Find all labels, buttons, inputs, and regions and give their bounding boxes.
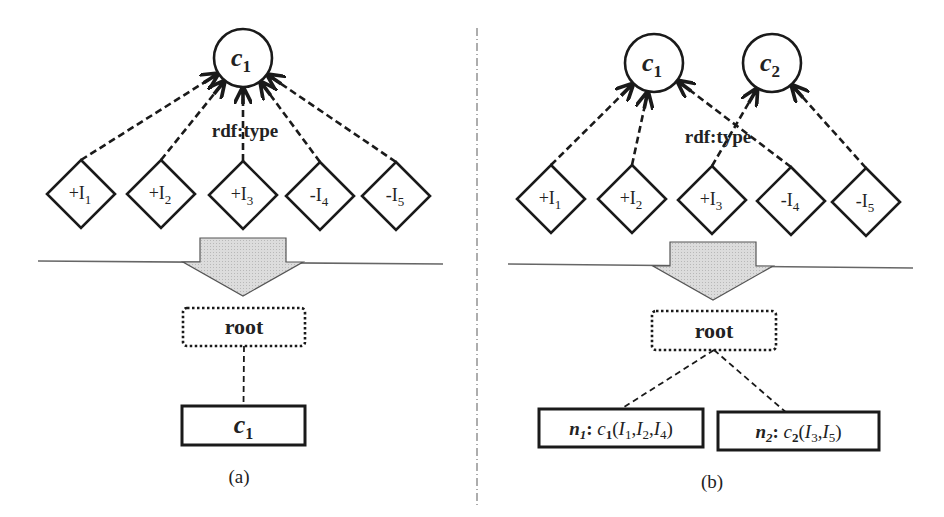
rdf-type-edge [792, 85, 866, 168]
panel-a: rdf:typec1+I1+I2+I3-I4-I5rootc1(a) [38, 29, 443, 488]
instance-node-I1: +I1 [47, 160, 115, 228]
rdf-type-edge [678, 81, 791, 167]
tree-edge [621, 350, 714, 409]
rdf-type-edge [551, 84, 633, 165]
panel-caption-b: (b) [701, 471, 723, 493]
rdf-type-edge [632, 92, 648, 165]
diagram-svg: rdf:typec1+I1+I2+I3-I4-I5rootc1(a) rdf:t… [0, 0, 944, 517]
root-label: root [695, 318, 734, 343]
instance-node-I1: +I1 [517, 165, 585, 233]
transform-arrow-icon [183, 238, 303, 296]
instance-node-I5: -I5 [362, 162, 430, 230]
instance-node-I2: +I2 [598, 165, 666, 233]
tree-edge [244, 346, 245, 406]
root-label: root [225, 314, 264, 339]
panel-b: rdf:typec1c2+I1+I2+I3-I4-I5rootn1: c1(I1… [508, 34, 913, 493]
root-node: root [652, 311, 776, 350]
class-node-c1: c1 [214, 29, 272, 87]
tree-edge [714, 350, 786, 412]
leaf-node-1: c1 [182, 406, 305, 445]
leaf-node-2: n2: c2(I3,I5) [718, 412, 879, 450]
transform-arrow-icon [653, 242, 773, 300]
instance-node-I3: +I3 [678, 166, 746, 234]
instance-node-I5: -I5 [832, 168, 900, 236]
diagram-canvas: rdf:typec1+I1+I2+I3-I4-I5rootc1(a) rdf:t… [0, 0, 944, 517]
rdf-type-edge [268, 75, 396, 162]
class-node-c2: c2 [743, 34, 801, 92]
edge-label-rdf-type: rdf:type [212, 120, 278, 141]
instance-node-I4: -I4 [286, 162, 354, 230]
class-node-c1: c1 [625, 34, 683, 92]
instance-node-I3: +I3 [209, 161, 277, 229]
instance-node-I4: -I4 [757, 167, 825, 235]
instance-node-I2: +I2 [127, 160, 195, 228]
panel-caption-a: (a) [228, 466, 249, 488]
edge-label-rdf-type: rdf:type [685, 126, 751, 147]
root-node: root [183, 308, 305, 346]
leaf-node-1: n1: c1(I1,I2,I4) [539, 409, 703, 447]
